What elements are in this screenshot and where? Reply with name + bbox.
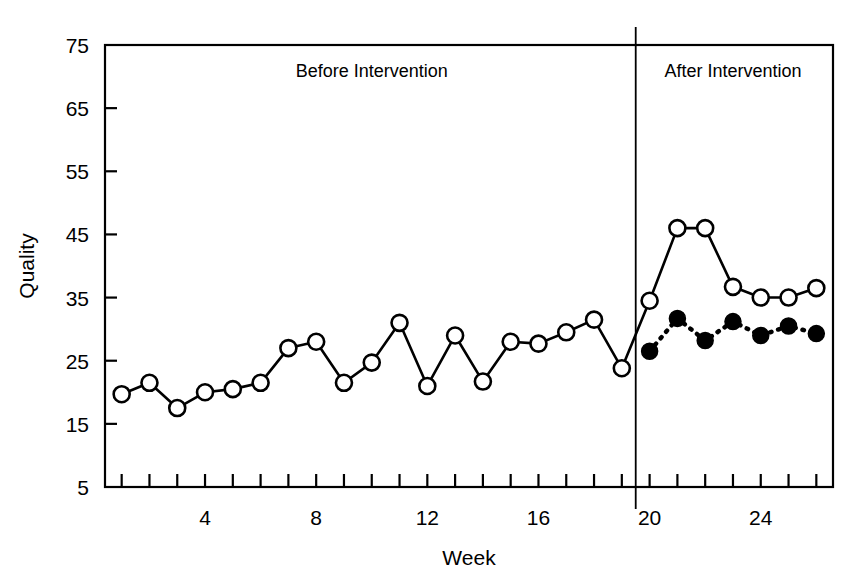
data-point-filled[interactable] xyxy=(697,333,713,349)
data-point-open[interactable] xyxy=(753,290,769,306)
y-tick-label: 65 xyxy=(66,97,89,120)
x-axis-title: Week xyxy=(442,546,496,569)
data-point-open[interactable] xyxy=(725,279,741,295)
data-point-open[interactable] xyxy=(336,375,352,391)
series-line-0 xyxy=(122,228,817,408)
quality-run-chart: 5152535455565754812162024WeekQualityBefo… xyxy=(0,0,867,572)
y-tick-label: 25 xyxy=(66,350,89,373)
data-point-open[interactable] xyxy=(808,280,824,296)
data-point-open[interactable] xyxy=(419,378,435,394)
data-point-open[interactable] xyxy=(614,360,630,376)
data-point-open[interactable] xyxy=(447,327,463,343)
y-tick-label: 55 xyxy=(66,160,89,183)
data-point-open[interactable] xyxy=(558,324,574,340)
before-intervention-label: Before Intervention xyxy=(296,61,448,81)
data-point-filled[interactable] xyxy=(669,310,685,326)
y-tick-label: 15 xyxy=(66,413,89,436)
data-point-open[interactable] xyxy=(253,375,269,391)
chart-container: 5152535455565754812162024WeekQualityBefo… xyxy=(0,0,867,572)
data-point-open[interactable] xyxy=(781,290,797,306)
data-point-open[interactable] xyxy=(669,220,685,236)
data-point-open[interactable] xyxy=(642,293,658,309)
data-point-open[interactable] xyxy=(503,334,519,350)
data-point-open[interactable] xyxy=(586,312,602,328)
y-tick-label: 5 xyxy=(77,476,89,499)
y-tick-label: 35 xyxy=(66,287,89,310)
x-tick-label: 8 xyxy=(310,506,322,529)
after-intervention-label: After Intervention xyxy=(664,61,801,81)
data-point-open[interactable] xyxy=(392,315,408,331)
data-point-open[interactable] xyxy=(530,336,546,352)
x-tick-label: 4 xyxy=(199,506,211,529)
data-point-filled[interactable] xyxy=(753,327,769,343)
y-axis-title: Quality xyxy=(15,233,38,299)
y-tick-label: 75 xyxy=(66,34,89,57)
data-point-filled[interactable] xyxy=(808,326,824,342)
data-point-open[interactable] xyxy=(169,400,185,416)
x-tick-label: 16 xyxy=(527,506,550,529)
x-tick-label: 12 xyxy=(416,506,439,529)
data-point-filled[interactable] xyxy=(781,318,797,334)
data-point-open[interactable] xyxy=(475,374,491,390)
data-point-open[interactable] xyxy=(225,381,241,397)
data-point-open[interactable] xyxy=(280,340,296,356)
data-point-filled[interactable] xyxy=(725,314,741,330)
data-point-open[interactable] xyxy=(697,220,713,236)
x-tick-label: 20 xyxy=(638,506,661,529)
data-point-filled[interactable] xyxy=(642,343,658,359)
data-point-open[interactable] xyxy=(308,334,324,350)
data-point-open[interactable] xyxy=(141,375,157,391)
y-tick-label: 45 xyxy=(66,223,89,246)
data-point-open[interactable] xyxy=(114,386,130,402)
x-tick-label: 24 xyxy=(749,506,773,529)
data-point-open[interactable] xyxy=(197,384,213,400)
data-point-open[interactable] xyxy=(364,355,380,371)
